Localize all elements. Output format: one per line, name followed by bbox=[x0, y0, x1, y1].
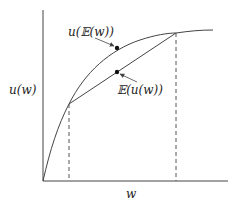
point-utility-of-expected bbox=[115, 46, 119, 50]
arrow-upper bbox=[95, 38, 114, 46]
utility-diagram: u(𝔼(w)) 𝔼(u(w)) u(w) w bbox=[0, 0, 238, 206]
y-axis-label: u(w) bbox=[9, 83, 37, 97]
x-axis-label: w bbox=[126, 187, 137, 201]
label-expected-utility: 𝔼(u(w)) bbox=[117, 83, 163, 97]
point-expected-utility bbox=[115, 70, 119, 74]
arrow-lower bbox=[120, 74, 137, 82]
label-utility-of-expected: u(𝔼(w)) bbox=[68, 25, 114, 39]
